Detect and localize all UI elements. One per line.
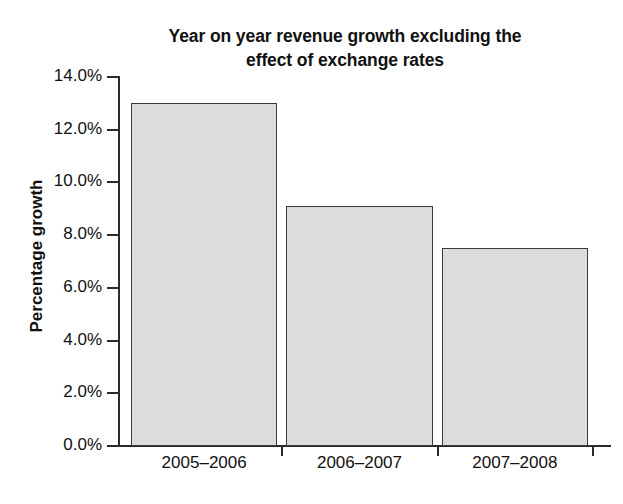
y-axis-tick-label: 14.0% (32, 66, 102, 86)
y-axis-tick-label: 12.0% (32, 119, 102, 139)
y-axis-tick (107, 392, 119, 394)
x-axis-category-label: 2006–2007 (286, 453, 432, 473)
y-axis-tick-label: 10.0% (32, 171, 102, 191)
y-axis-tick-label: 0.0% (32, 435, 102, 455)
y-axis-tick-label: 4.0% (32, 330, 102, 350)
y-axis-tick (107, 76, 119, 78)
x-axis-tick (281, 447, 283, 456)
bar (131, 103, 277, 446)
x-axis-tick (437, 447, 439, 456)
y-axis-tick (107, 287, 119, 289)
y-axis-tick-labels: 0.0%2.0%4.0%6.0%8.0%10.0%12.0%14.0% (30, 0, 102, 504)
bar (442, 248, 588, 446)
chart-title: Year on year revenue growth excluding th… (100, 24, 590, 72)
y-axis-tick (107, 340, 119, 342)
y-axis-tick (107, 129, 119, 131)
bar-chart: Year on year revenue growth excluding th… (0, 0, 623, 504)
bar (286, 206, 432, 446)
x-axis-category-label: 2005–2006 (131, 453, 277, 473)
x-axis-tick (592, 447, 594, 456)
x-axis-category-label: 2007–2008 (442, 453, 588, 473)
y-axis-tick-label: 2.0% (32, 382, 102, 402)
y-axis-tick (107, 181, 119, 183)
y-axis-tick-label: 6.0% (32, 277, 102, 297)
y-axis-tick (107, 445, 119, 447)
y-axis-tick (107, 234, 119, 236)
y-axis-tick-label: 8.0% (32, 224, 102, 244)
